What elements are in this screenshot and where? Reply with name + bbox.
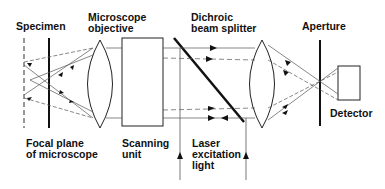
label-specimen: Specimen [16,21,66,32]
label-focal-plane: Focal plane of microscope [26,138,98,160]
detector-box [338,66,360,100]
objective-lens [88,40,113,128]
label-beam-splitter: Dichroic beam splitter [191,12,256,34]
scanning-unit-box [122,38,163,126]
label-detector: Detector [330,108,373,119]
label-scanning-unit: Scanning unit [122,138,169,160]
label-laser: Laser excitation light [192,138,241,171]
label-objective: Microscope objective [88,12,146,34]
collector-lens [250,40,275,128]
label-aperture: Aperture [302,21,346,32]
